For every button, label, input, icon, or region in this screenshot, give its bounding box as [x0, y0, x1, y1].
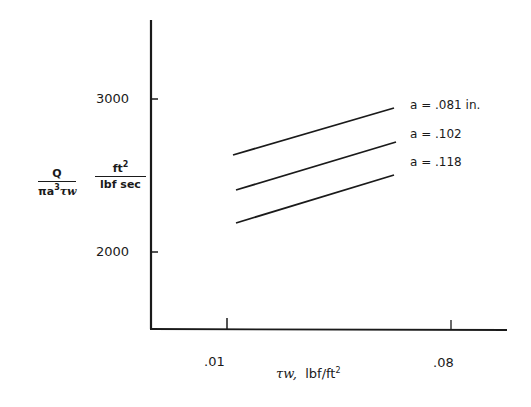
y-label-numerator: Q — [38, 167, 76, 181]
legend-label-a-102: a = .102 — [410, 127, 462, 141]
y-axis-label-quantity: Q πa3τw — [38, 167, 76, 198]
x-axis — [150, 329, 507, 330]
y-axis-label-units: ft2 lbf sec — [95, 160, 146, 191]
y-tick-label-2000: 2000 — [96, 244, 129, 259]
x-tick-label-08: .08 — [433, 355, 454, 370]
x-axis-label-symbol: τw, — [276, 366, 297, 381]
y-tick-label-3000: 3000 — [96, 91, 129, 106]
y-units-denominator: lbf sec — [95, 177, 146, 191]
x-axis-label-units: lbf/ft — [305, 366, 335, 381]
y-units-numerator: ft2 — [95, 160, 146, 176]
chart-canvas — [0, 0, 531, 407]
series-line-a-102 — [236, 142, 396, 190]
x-axis-label: τw, lbf/ft2 — [276, 366, 341, 381]
x-tick-label-01: .01 — [204, 354, 225, 369]
legend-label-a-118: a = .118 — [410, 155, 462, 169]
legend-label-a-081: a = .081 in. — [410, 98, 480, 112]
series-line-a-081 — [233, 108, 394, 155]
x-axis-label-sup: 2 — [335, 366, 340, 375]
y-label-denominator: πa3τw — [38, 182, 76, 198]
